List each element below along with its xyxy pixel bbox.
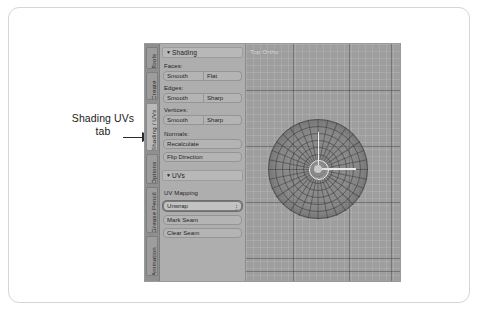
tab-label: Grease Pencil <box>148 224 158 233</box>
tab-animation[interactable]: Animation <box>146 236 158 276</box>
tab-label: Options <box>148 175 158 184</box>
triangle-down-icon: ▼ <box>166 48 171 57</box>
tab-create[interactable]: Create <box>146 72 158 100</box>
panel-header-uvs-label: UVs <box>172 172 185 179</box>
edges-sharp-button[interactable]: Sharp <box>204 93 242 103</box>
flip-direction-button[interactable]: Flip Direction <box>163 152 242 162</box>
uv-sphere-mesh[interactable] <box>265 116 371 222</box>
tab-options[interactable]: Options <box>146 154 158 184</box>
uv-mapping-value: Unwrap <box>167 203 188 209</box>
edges-smooth-button[interactable]: Smooth <box>163 93 204 103</box>
uv-mapping-dropdown[interactable]: Unwrap ⋮ <box>163 201 242 211</box>
3d-viewport[interactable]: Top Ortho <box>246 44 400 281</box>
properties-tab-strip: ToolsCreateShading / UVsOptionsGrease Pe… <box>145 44 160 281</box>
faces-flat-button[interactable]: Flat <box>204 71 242 81</box>
blender-screenshot: ToolsCreateShading / UVsOptionsGrease Pe… <box>145 44 400 281</box>
triangle-down-icon: ▼ <box>166 171 171 180</box>
vertices-smooth-button[interactable]: Smooth <box>163 115 204 125</box>
mark-seam-button[interactable]: Mark Seam <box>163 215 242 225</box>
clear-seam-button[interactable]: Clear Seam <box>163 228 242 238</box>
viewport-view-label: Top Ortho <box>250 48 279 55</box>
tab-label: Shading / UVs <box>148 142 158 151</box>
section-label-faces: Faces: <box>164 63 183 69</box>
faces-smooth-button[interactable]: Smooth <box>163 71 204 81</box>
tool-shelf-panel: ▼Shading Faces: Smooth Flat Edges: Smoot… <box>160 44 246 281</box>
panel-header-shading[interactable]: ▼Shading <box>162 47 243 58</box>
vertices-sharp-button[interactable]: Sharp <box>204 115 242 125</box>
panel-header-uvs[interactable]: ▼UVs <box>162 170 243 181</box>
tab-tools[interactable]: Tools <box>146 47 158 69</box>
recalculate-button[interactable]: Recalculate <box>163 139 242 149</box>
panel-header-shading-label: Shading <box>172 49 197 56</box>
tab-label: Animation <box>148 267 158 276</box>
tab-label: Create <box>148 91 158 100</box>
section-label-edges: Edges: <box>164 85 183 91</box>
section-label-vertices: Vertices: <box>164 107 188 113</box>
section-label-normals: Normals: <box>164 131 189 137</box>
tab-label: Tools <box>148 60 158 69</box>
transform-manipulator-gizmo[interactable] <box>318 169 319 170</box>
annotation-line-1: Shading UVs <box>47 112 159 125</box>
tab-shading-uvs[interactable]: Shading / UVs <box>146 103 158 151</box>
tab-grease-pencil[interactable]: Grease Pencil <box>146 187 158 233</box>
section-label-uv-mapping: UV Mapping <box>164 190 198 196</box>
page-frame: Shading UVs tab ToolsCreateShading / UVs… <box>8 7 470 303</box>
chevron-updown-icon: ⋮ <box>234 203 238 211</box>
